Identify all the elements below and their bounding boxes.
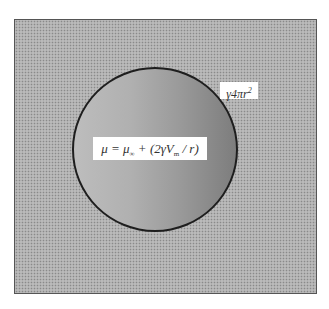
equals-sign: =: [108, 141, 123, 156]
surface-energy-label: γ4πr2: [220, 82, 258, 99]
surface-energy-exponent: 2: [248, 86, 252, 95]
gibbs-thomson-term: + (2γV: [135, 141, 174, 156]
chemical-potential-equation: μ = μ∞ + (2γVm / r): [93, 137, 207, 160]
radius-term: / r): [179, 141, 199, 156]
surface-energy-base: γ4πr: [226, 87, 247, 101]
